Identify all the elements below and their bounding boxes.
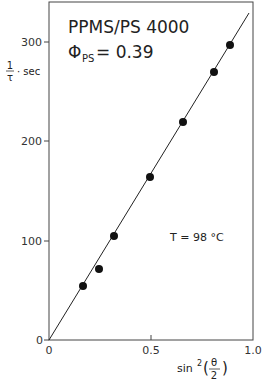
y-label-unit: · sec [17,66,40,77]
x-label-numerator: θ [211,357,217,368]
phi-value: = 0.39 [96,42,154,62]
data-point [210,68,218,76]
data-point [95,265,103,273]
y-tick-label: 200 [21,135,42,148]
x-label-sin: sin [177,362,193,375]
x-tick-label: 1.0 [244,344,262,357]
annotation-phi: Φ PS = 0.39 [68,42,154,64]
y-label-numerator: 1 [7,60,13,71]
annotation-title: PPMS/PS 4000 [68,17,189,37]
y-axis-label: 1 τ · sec [6,60,40,83]
x-tick-label: 0 [46,344,53,357]
y-tick-label: 300 [21,36,42,49]
data-point [226,41,234,49]
annotation-temperature: T = 98 °C [169,231,224,244]
y-axis: 0 100 200 300 [21,36,49,347]
x-tick-label: 0.5 [142,344,160,357]
data-point [110,232,118,240]
y-tick-label: 0 [36,334,43,347]
x-label-lparen: ( [203,359,209,377]
x-label-sup: 2 [197,359,202,368]
y-label-denominator: τ [7,72,13,83]
x-label-denominator: 2 [211,370,217,381]
y-tick-label: 100 [21,235,42,248]
x-axis: 0 0.5 1.0 [46,335,262,357]
data-point [179,118,187,126]
phi-symbol: Φ [68,42,81,62]
data-point [146,173,154,181]
phi-subscript: PS [82,53,94,64]
data-point [79,282,87,290]
x-label-rparen: ) [222,359,228,377]
x-axis-label: sin 2 ( θ 2 ) [177,357,228,381]
chart: 0 100 200 300 1 τ · sec 0 0.5 1.0 sin 2 … [0,0,264,384]
